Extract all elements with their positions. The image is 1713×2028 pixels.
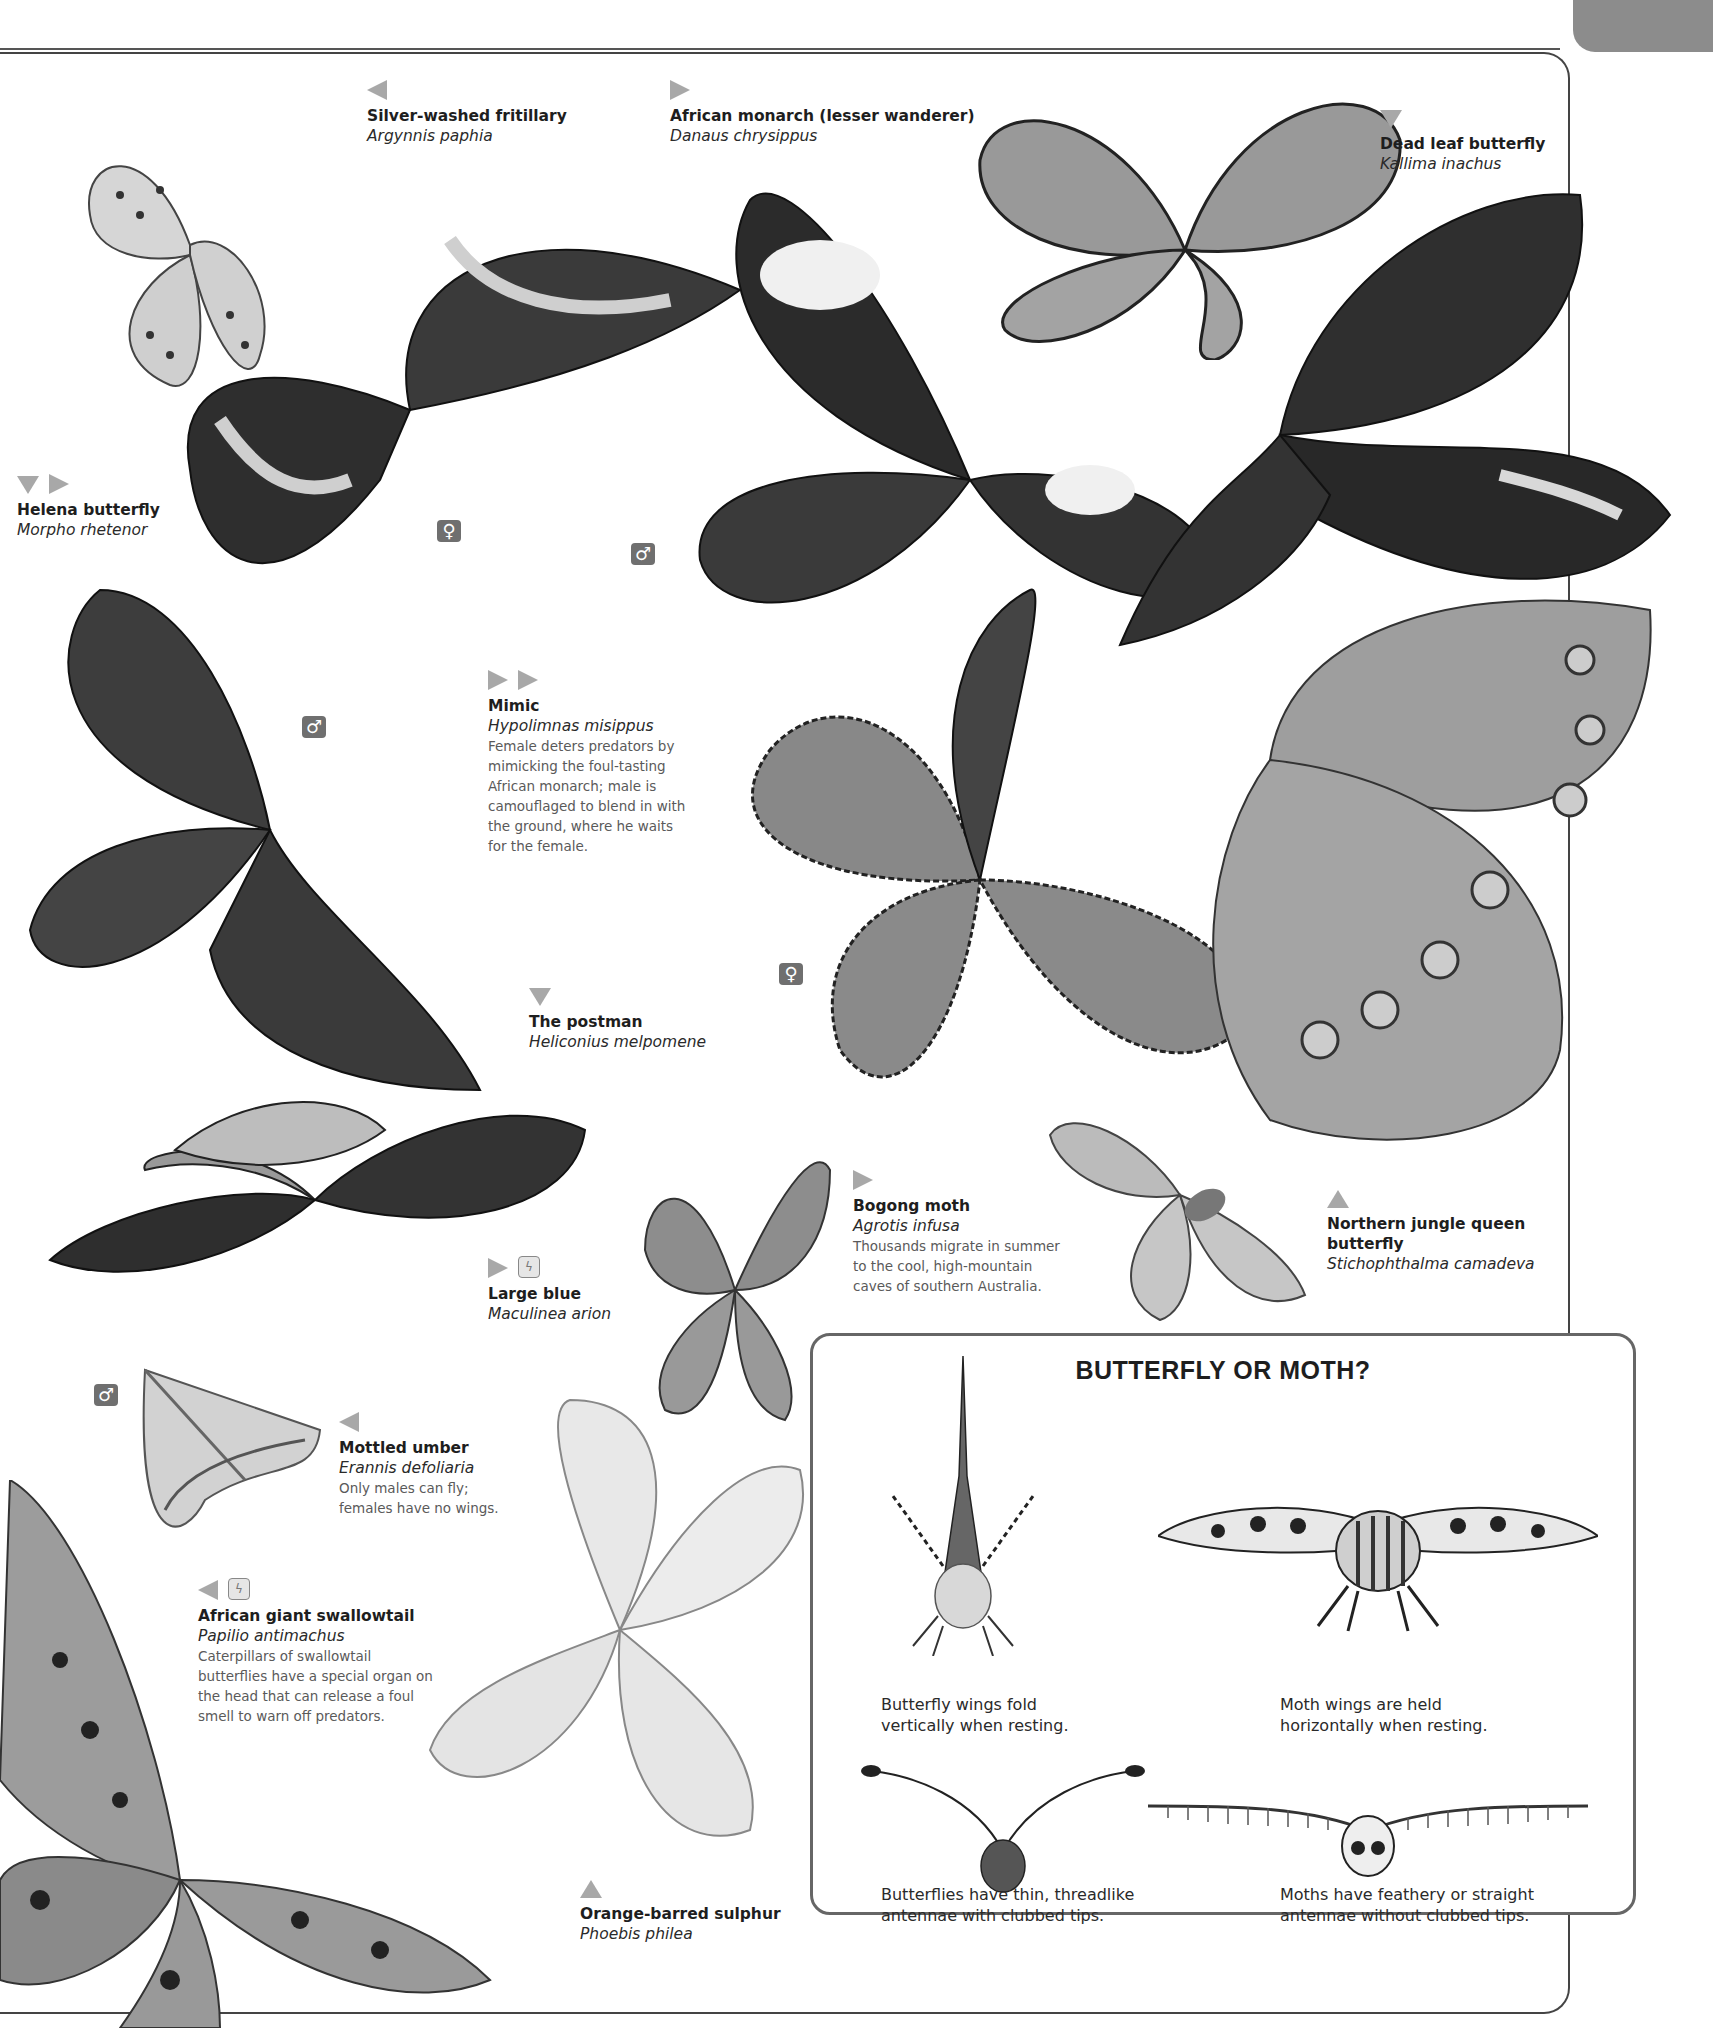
common-name: Large blue [488,1284,611,1304]
latin-name: Hypolimnas misippus [488,716,688,736]
female-symbol-icon: ♀ [779,963,803,985]
common-name: Mottled umber [339,1438,509,1458]
down-arrow-marker-icon [1380,110,1402,128]
moth-wings-caption: Moth wings are held horizontally when re… [1280,1694,1510,1736]
species-description: Caterpillars of swallowtail butterflies … [198,1646,438,1726]
species-label-mimic: Mimic Hypolimnas misippus Female deters … [488,668,688,856]
moth-antennae-illustration [1148,1776,1588,1886]
endangered-status-icon: ϟ [518,1256,540,1278]
common-name: Dead leaf butterfly [1380,134,1545,154]
common-name: Northern jungle queen butterfly [1327,1214,1557,1254]
female-symbol-icon: ♀ [437,520,461,542]
bogong-moth-illustration [1040,1095,1310,1325]
species-description: Only males can fly; females have no wing… [339,1478,509,1518]
latin-name: Heliconius melpomene [529,1032,706,1052]
butterfly-wings-caption: Butterfly wings fold vertically when res… [881,1694,1091,1736]
down-arrow-marker-icon [529,988,551,1006]
up-arrow-marker-icon [1327,1190,1349,1208]
butterfly-resting-illustration [883,1356,1043,1656]
common-name: The postman [529,1012,706,1032]
latin-name: Maculinea arion [488,1304,611,1324]
common-name: African monarch (lesser wanderer) [670,106,975,126]
right-arrow-marker-icon [49,474,69,494]
down-arrow-marker-icon [17,476,39,494]
common-name: African giant swallowtail [198,1606,438,1626]
species-label-dead-leaf-butterfly: Dead leaf butterfly Kallima inachus [1380,106,1545,174]
large-blue-illustration [635,1140,835,1430]
species-label-mottled-umber: Mottled umber Erannis defoliaria Only ma… [339,1410,509,1518]
helena-male-illustration [10,570,490,1100]
right-arrow-marker-icon [670,80,690,100]
latin-name: Stichophthalma camadeva [1327,1254,1557,1274]
right-arrow-marker-icon [518,670,538,690]
common-name: Bogong moth [853,1196,1068,1216]
species-label-the-postman: The postman Heliconius melpomene [529,984,706,1052]
northern-jungle-queen-illustration [1180,580,1670,1160]
left-arrow-marker-icon [339,1412,359,1432]
left-arrow-marker-icon [198,1580,218,1600]
moth-antennae-caption: Moths have feathery or straight antennae… [1280,1884,1550,1926]
species-label-silver-washed-fritillary: Silver-washed fritillary Argynnis paphia [367,78,567,146]
latin-name: Erannis defoliaria [339,1458,509,1478]
species-label-african-giant-swallowtail: ϟ African giant swallowtail Papilio anti… [198,1578,438,1726]
species-label-bogong-moth: Bogong moth Agrotis infusa Thousands mig… [853,1168,1068,1296]
species-label-helena-butterfly: Helena butterfly Morpho rhetenor [17,472,160,540]
right-arrow-marker-icon [488,670,508,690]
right-arrow-marker-icon [853,1170,873,1190]
butterfly-antennae-caption: Butterflies have thin, threadlike antenn… [881,1884,1151,1926]
male-symbol-icon: ♂ [94,1384,118,1406]
common-name: Helena butterfly [17,500,160,520]
butterfly-or-moth-panel: BUTTERFLY OR MOTH? Butterfly wings fold … [810,1333,1636,1915]
species-label-african-monarch: African monarch (lesser wanderer) Danaus… [670,78,975,146]
moth-resting-illustration [1158,1476,1598,1636]
latin-name: Phoebis philea [580,1924,781,1944]
left-arrow-marker-icon [367,80,387,100]
male-symbol-icon: ♂ [631,543,655,565]
latin-name: Morpho rhetenor [17,520,160,540]
up-arrow-marker-icon [580,1880,602,1898]
page-corner-tab [1573,0,1713,52]
species-label-large-blue: ϟ Large blue Maculinea arion [488,1256,611,1324]
latin-name: Argynnis paphia [367,126,567,146]
species-description: Female deters predators by mimicking the… [488,736,688,856]
species-description: Thousands migrate in summer to the cool,… [853,1236,1068,1296]
latin-name: Kallima inachus [1380,154,1545,174]
right-arrow-marker-icon [488,1258,508,1278]
endangered-status-icon: ϟ [228,1578,250,1600]
latin-name: Danaus chrysippus [670,126,975,146]
common-name: Silver-washed fritillary [367,106,567,126]
species-label-orange-barred-sulphur: Orange-barred sulphur Phoebis philea [580,1876,781,1944]
male-symbol-icon: ♂ [302,716,326,738]
species-label-northern-jungle-queen: Northern jungle queen butterfly Stichoph… [1327,1186,1557,1274]
top-rule [0,48,1560,50]
common-name: Mimic [488,696,688,716]
latin-name: Agrotis infusa [853,1216,1068,1236]
common-name: Orange-barred sulphur [580,1904,781,1924]
latin-name: Papilio antimachus [198,1626,438,1646]
